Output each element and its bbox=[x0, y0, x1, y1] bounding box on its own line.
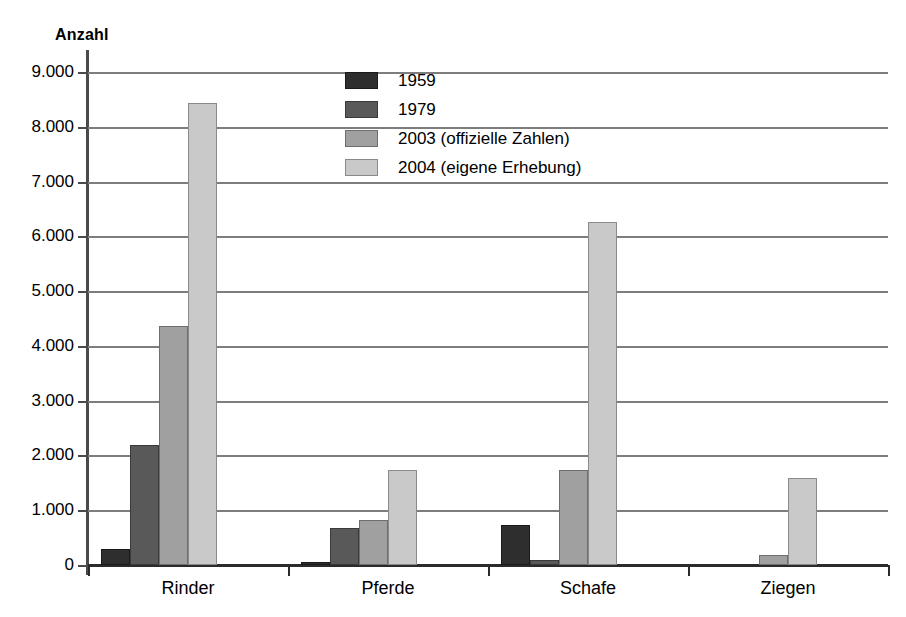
y-axis-label-text: 7.000 bbox=[4, 173, 74, 190]
bar-schafe-1979 bbox=[530, 560, 559, 565]
y-axis-label-text: 1.000 bbox=[4, 501, 74, 518]
category-label-rinder: Rinder bbox=[88, 578, 288, 598]
bar-schafe-2004 bbox=[588, 222, 617, 565]
bar-rinder-2004 bbox=[188, 103, 217, 565]
bar-schafe-2003 bbox=[559, 470, 588, 565]
category-label-pferde: Pferde bbox=[288, 578, 488, 598]
bar-pferde-2004 bbox=[388, 470, 417, 565]
category-label-schafe: Schafe bbox=[488, 578, 688, 598]
x-axis-tick bbox=[488, 565, 490, 576]
bar-chart: Anzahl 01.0002.0003.0004.0005.0006.0007.… bbox=[0, 0, 906, 617]
x-axis-tick bbox=[88, 565, 90, 576]
y-axis-label-text: 0 bbox=[4, 556, 74, 573]
legend-label: 1959 bbox=[398, 71, 436, 90]
legend-swatch-icon bbox=[345, 130, 378, 147]
legend: 195919792003 (offizielle Zahlen)2004 (ei… bbox=[345, 66, 581, 182]
y-axis-label-text: 5.000 bbox=[4, 282, 74, 299]
x-axis-tick bbox=[688, 565, 690, 576]
bar-rinder-1959 bbox=[101, 549, 130, 565]
bar-pferde-2003 bbox=[359, 520, 388, 565]
legend-label: 2003 (offizielle Zahlen) bbox=[398, 129, 570, 148]
legend-swatch-icon bbox=[345, 101, 378, 118]
x-axis-tick bbox=[288, 565, 290, 576]
y-axis-label-text: 8.000 bbox=[4, 118, 74, 135]
legend-swatch-icon bbox=[345, 72, 378, 89]
legend-label: 2004 (eigene Erhebung) bbox=[398, 158, 581, 177]
legend-item: 1979 bbox=[345, 95, 581, 124]
category-label-ziegen: Ziegen bbox=[688, 578, 888, 598]
y-axis-label-text: 2.000 bbox=[4, 446, 74, 463]
bar-schafe-1959 bbox=[501, 525, 530, 565]
y-axis-label-text: 3.000 bbox=[4, 392, 74, 409]
bar-rinder-2003 bbox=[159, 326, 188, 565]
legend-item: 2004 (eigene Erhebung) bbox=[345, 153, 581, 182]
y-axis-label-text: 6.000 bbox=[4, 227, 74, 244]
bar-pferde-1959 bbox=[301, 562, 330, 565]
legend-item: 2003 (offizielle Zahlen) bbox=[345, 124, 581, 153]
x-axis-tick bbox=[888, 565, 890, 576]
y-axis-label-text: 4.000 bbox=[4, 337, 74, 354]
bar-pferde-1979 bbox=[330, 528, 359, 565]
y-axis-label-text: 9.000 bbox=[4, 63, 74, 80]
y-axis-title: Anzahl bbox=[55, 26, 109, 44]
legend-item: 1959 bbox=[345, 66, 581, 95]
bar-rinder-1979 bbox=[130, 445, 159, 565]
legend-swatch-icon bbox=[345, 159, 378, 176]
bar-ziegen-2003 bbox=[759, 555, 788, 565]
bar-ziegen-2004 bbox=[788, 478, 817, 565]
legend-label: 1979 bbox=[398, 100, 436, 119]
